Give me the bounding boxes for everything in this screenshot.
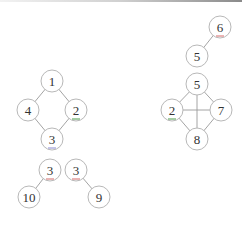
node-label: 5 — [194, 77, 201, 92]
graph-node: 5 — [186, 45, 208, 67]
graph-node: 3 — [39, 159, 61, 181]
graph-node: 3 — [65, 159, 87, 181]
node-label: 3 — [73, 163, 80, 178]
graph-node: 5 — [186, 73, 208, 95]
node-label: 6 — [217, 20, 224, 35]
node-label: 2 — [169, 103, 176, 118]
node-label: 1 — [49, 74, 56, 89]
graph-node: 1 — [41, 70, 63, 92]
graph-node: 3 — [41, 128, 63, 150]
graph-node: 2 — [161, 99, 183, 121]
node-label: 9 — [96, 190, 103, 205]
node-label: 3 — [47, 163, 54, 178]
node-label: 8 — [194, 132, 201, 147]
graph-node: 6 — [209, 16, 231, 38]
node-label: 4 — [25, 103, 32, 118]
graph-node: 2 — [65, 99, 87, 121]
nodes-layer: 142331039655278 — [17, 16, 232, 208]
graph-node: 7 — [210, 99, 232, 121]
node-label: 5 — [194, 49, 201, 64]
node-label: 3 — [49, 132, 56, 147]
node-label: 2 — [73, 103, 80, 118]
graph-node: 9 — [88, 186, 110, 208]
graph-diagram-canvas: 142331039655278 — [0, 0, 242, 225]
node-label: 7 — [218, 103, 225, 118]
graph-node: 4 — [17, 99, 39, 121]
node-label: 10 — [23, 190, 36, 205]
graph-node: 10 — [18, 186, 40, 208]
graph-node: 8 — [186, 128, 208, 150]
